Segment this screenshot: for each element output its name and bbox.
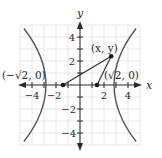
point-on-curve [109, 54, 114, 59]
y-tick-label: −2 [61, 104, 76, 115]
hyperbola-diagram: x −4 −2 2 4 y 4 2 −2 −4 (−√2, 0) (√2, 0)… [0, 0, 162, 158]
y-axis-label: y [76, 7, 84, 20]
right-focus-point [95, 83, 100, 88]
y-tick-label: 4 [69, 32, 75, 43]
x-tick-label: 4 [125, 90, 131, 101]
point-on-curve-label: (x, y) [91, 42, 118, 54]
y-axis-arrow-down-icon [77, 143, 83, 151]
left-focus-label: (−√2, 0) [2, 69, 46, 81]
left-focus-point [61, 83, 66, 88]
x-tick-label: −4 [25, 90, 40, 101]
x-tick-label: −2 [47, 90, 62, 101]
x-axis-label: x [146, 79, 153, 92]
right-focus-label: (√2, 0) [104, 69, 139, 81]
x-axis-arrow-right-icon [134, 82, 142, 88]
x-axis-arrow-left-icon [18, 82, 26, 88]
y-tick-label: 2 [69, 56, 75, 67]
x-tick-label: 2 [101, 90, 107, 101]
x-axis: x −4 −2 2 4 [18, 79, 153, 101]
y-tick-label: −4 [61, 128, 76, 139]
